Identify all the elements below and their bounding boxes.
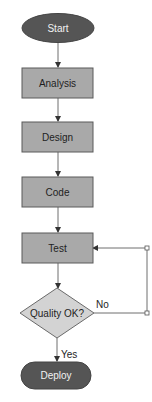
node-deploy[interactable]: Deploy <box>21 362 91 389</box>
node-test-label: Test <box>48 243 67 254</box>
node-start[interactable]: Start <box>22 14 94 43</box>
node-quality-label: Quality OK? <box>30 308 84 319</box>
node-analysis-label: Analysis <box>39 78 76 89</box>
node-design[interactable]: Design <box>22 122 93 152</box>
node-test[interactable]: Test <box>22 233 93 263</box>
node-design-label: Design <box>42 132 73 143</box>
edge-label-no: No <box>96 299 109 310</box>
node-deploy-label: Deploy <box>40 370 71 381</box>
node-quality-decision[interactable]: Quality OK? <box>20 288 94 338</box>
waypoint-handle[interactable] <box>145 311 149 315</box>
edge-label-yes: Yes <box>61 349 77 360</box>
waypoint-handle[interactable] <box>145 246 149 250</box>
flowchart: Start Analysis Design Code Test Quality … <box>0 0 152 402</box>
node-start-label: Start <box>47 23 68 34</box>
node-code[interactable]: Code <box>22 177 93 207</box>
node-code-label: Code <box>46 187 70 198</box>
node-analysis[interactable]: Analysis <box>22 68 93 98</box>
